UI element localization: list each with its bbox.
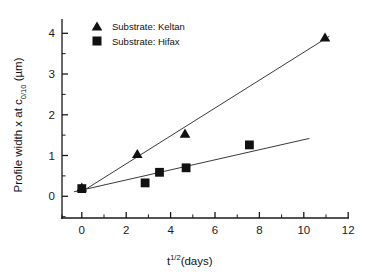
chart-figure: 0 1 2 3 4 0 2 4 6 8 10 12: [0, 0, 373, 276]
legend-label-hifax: Substrate: Hifax: [112, 36, 180, 47]
x-tick-label-10: 10: [297, 224, 310, 236]
y-axis-title-part1: Profile width x at c: [12, 99, 24, 193]
x-axis-title-unit: (days): [181, 255, 213, 267]
y-tick-label-0: 0: [49, 190, 55, 202]
data-point-hifax-2: [155, 168, 164, 177]
x-tick-label-0: 0: [79, 224, 85, 236]
y-tick-label-2: 2: [49, 109, 55, 121]
y-tick-label-4: 4: [49, 27, 56, 39]
y-tick-label-1: 1: [49, 150, 55, 162]
x-tick-label-8: 8: [256, 224, 262, 236]
x-tick-label-12: 12: [342, 224, 355, 236]
data-point-hifax-4: [245, 141, 254, 150]
x-tick-label-2: 2: [123, 224, 129, 236]
x-axis-title-exponent: 1/2: [170, 253, 180, 262]
legend-label-keltan: Substrate: Keltan: [112, 21, 185, 32]
y-axis-title-part2: (µm): [12, 57, 24, 84]
y-tick-label-3: 3: [49, 68, 55, 80]
data-point-hifax-3: [182, 163, 191, 172]
scatter-plot-svg: 0 1 2 3 4 0 2 4 6 8 10 12: [0, 0, 373, 276]
y-axis-title-subscript: 0/10: [19, 85, 28, 100]
legend-marker-square-icon: [93, 37, 102, 46]
plot-background: [0, 0, 373, 276]
data-point-hifax-0: [77, 184, 86, 193]
x-tick-label-6: 6: [212, 224, 218, 236]
x-tick-label-4: 4: [167, 224, 174, 236]
data-point-hifax-1: [141, 179, 150, 188]
